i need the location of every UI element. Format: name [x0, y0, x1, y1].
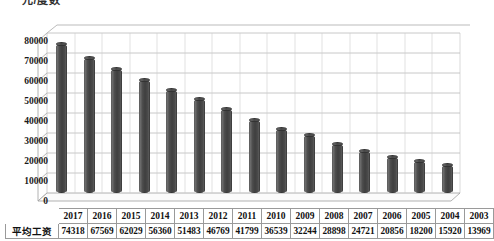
table-value-2007: 24721: [349, 224, 378, 239]
bar-2013: [166, 90, 177, 193]
bar-cap: [332, 142, 343, 146]
table-header-year-2014: 2014: [146, 209, 175, 224]
table-value-2010: 36539: [262, 224, 291, 239]
table-corner-cell: [6, 209, 59, 224]
table-value-2017: 74318: [59, 224, 88, 239]
table-header-year-2013: 2013: [175, 209, 204, 224]
table-header-year-2011: 2011: [233, 209, 262, 224]
bar-2012: [194, 99, 205, 193]
table-value-2011: 41799: [233, 224, 262, 239]
bar-2004: [414, 161, 425, 193]
table-value-2006: 20856: [378, 224, 407, 239]
table-header-year-2003: 2003: [465, 209, 494, 224]
bar-2016: [84, 58, 95, 193]
bar-2003: [442, 165, 453, 193]
table-header-year-2015: 2015: [117, 209, 146, 224]
table-header-row: 2017201620152014201320122011201020092008…: [6, 209, 494, 224]
table-value-2016: 67569: [88, 224, 117, 239]
table-value-2012: 46769: [204, 224, 233, 239]
table-header-year-2005: 2005: [407, 209, 436, 224]
table-value-2003: 13969: [465, 224, 494, 239]
bar-cap: [166, 88, 177, 92]
table-header-year-2017: 2017: [59, 209, 88, 224]
bar-cap: [442, 163, 453, 167]
bar-cap: [249, 118, 260, 122]
bar-2005: [387, 157, 398, 193]
table-value-2014: 56360: [146, 224, 175, 239]
bar-2010: [249, 120, 260, 193]
table-header-year-2004: 2004: [436, 209, 465, 224]
bar-2007: [332, 144, 343, 193]
table-header-year-2008: 2008: [320, 209, 349, 224]
bar-cap: [139, 78, 150, 82]
table-value-2005: 18200: [407, 224, 436, 239]
table-header-year-2009: 2009: [291, 209, 320, 224]
bar-cap: [276, 127, 287, 131]
bar-cap: [414, 159, 425, 163]
bar-2008: [304, 135, 315, 193]
table-row-label: 平均工资: [6, 224, 59, 239]
bar-2011: [221, 109, 232, 193]
bar-2014: [139, 80, 150, 193]
data-table: 2017201620152014201320122011201020092008…: [5, 208, 494, 239]
bar-cap: [56, 42, 67, 46]
bar-2009: [276, 129, 287, 193]
bar-2006: [359, 151, 370, 193]
bar-cap: [359, 149, 370, 153]
table-value-2008: 28898: [320, 224, 349, 239]
table-value-2015: 62029: [117, 224, 146, 239]
bar-cap: [221, 107, 232, 111]
table-header-year-2006: 2006: [378, 209, 407, 224]
bar-cap: [84, 56, 95, 60]
bar-2017: [56, 44, 67, 193]
chart-title: 元/度数: [22, 0, 60, 7]
bar-cap: [194, 97, 205, 101]
bar-cap: [304, 133, 315, 137]
table-value-2009: 32244: [291, 224, 320, 239]
table-data-row: 平均工资 74318675696202956360514834676941799…: [6, 224, 494, 239]
bar-2015: [111, 69, 122, 193]
table-header-year-2007: 2007: [349, 209, 378, 224]
table-header-year-2010: 2010: [262, 209, 291, 224]
table-value-2004: 15920: [436, 224, 465, 239]
bar-cap: [111, 67, 122, 71]
table-header-year-2016: 2016: [88, 209, 117, 224]
table-value-2013: 51483: [175, 224, 204, 239]
bar-cap: [387, 155, 398, 159]
table-header-year-2012: 2012: [204, 209, 233, 224]
bar-series: [0, 12, 488, 208]
